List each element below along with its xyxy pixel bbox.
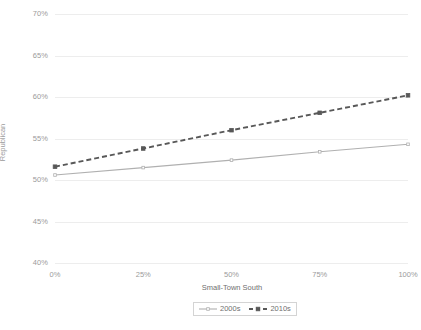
data-point-marker <box>407 143 410 146</box>
legend-label: 2010s <box>270 305 290 313</box>
chart-legend: 2000s2010s <box>193 302 297 316</box>
data-point-marker <box>406 94 410 98</box>
data-point-marker <box>230 128 234 132</box>
data-point-marker <box>141 147 145 151</box>
chart-container: Republican 40%45%50%55%60%65%70% 0%25%50… <box>0 0 421 330</box>
legend-label: 2000s <box>220 305 240 313</box>
data-point-marker <box>142 166 145 169</box>
legend-item-2000s[interactable]: 2000s <box>199 305 240 313</box>
plot-area <box>0 0 421 330</box>
data-point-marker <box>318 151 321 154</box>
x-axis-tick-label: 0% <box>50 271 61 279</box>
legend-item-2010s[interactable]: 2010s <box>249 305 290 313</box>
x-axis-title: Small-Town South <box>202 283 262 292</box>
x-axis-tick-label: 75% <box>312 271 327 279</box>
x-axis-tick-label: 100% <box>398 271 417 279</box>
x-axis-tick-label: 50% <box>224 271 239 279</box>
legend-swatch-2010s-icon <box>249 305 267 313</box>
data-point-marker <box>53 165 57 169</box>
x-axis-tick-label: 25% <box>136 271 151 279</box>
legend-swatch-2000s-icon <box>199 305 217 313</box>
data-point-marker <box>54 174 57 177</box>
data-point-marker <box>230 159 233 162</box>
data-point-marker <box>318 111 322 115</box>
